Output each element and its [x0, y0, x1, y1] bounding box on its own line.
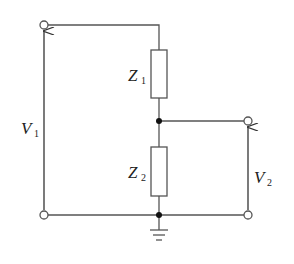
top-wire [48, 25, 159, 50]
impedance-z1 [151, 50, 167, 98]
label-v1-main: V [21, 119, 34, 138]
label-z1: Z 1 [128, 66, 146, 86]
terminal-input-bottom [40, 211, 48, 219]
label-v1-sub: 1 [34, 128, 39, 139]
terminal-output-bottom [244, 211, 252, 219]
label-z2-sub: 2 [141, 172, 146, 183]
label-z2: Z 2 [128, 163, 146, 183]
voltage-divider-diagram: Z 1 Z 2 V 1 V 2 [0, 0, 294, 264]
terminal-output-top [244, 117, 252, 125]
label-v2-main: V [254, 168, 267, 187]
impedance-z2 [151, 147, 167, 196]
wires [48, 25, 244, 230]
label-v2-sub: 2 [267, 177, 272, 188]
label-z1-main: Z [128, 66, 138, 85]
ground-icon [150, 230, 168, 240]
junction-dot-middle [156, 118, 162, 124]
label-z2-main: Z [128, 163, 138, 182]
junction-dot-bottom [156, 212, 162, 218]
label-z1-sub: 1 [141, 75, 146, 86]
terminal-input-top [40, 21, 48, 29]
label-v1: V 1 [21, 119, 39, 139]
label-v2: V 2 [254, 168, 272, 188]
